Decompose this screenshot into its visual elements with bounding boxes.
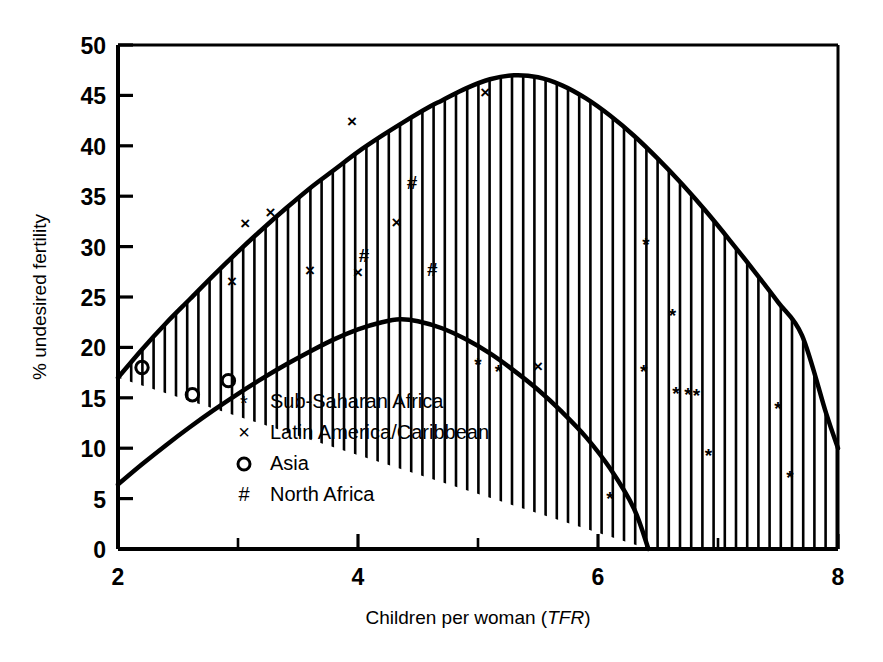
scatter-chart-svg: 05101520253035404550 2468 ************××… (0, 0, 883, 662)
legend-label: Sub-Saharan Africa (270, 390, 444, 412)
data-point: × (533, 357, 543, 376)
data-point: # (407, 172, 418, 193)
y-tick-label-5: 5 (93, 487, 106, 513)
data-point: * (693, 385, 701, 406)
x-tick-label-6: 6 (592, 564, 605, 590)
data-point: × (227, 272, 237, 291)
y-tick-label-20: 20 (80, 335, 106, 361)
data-point: × (240, 214, 250, 233)
y-tick-label-25: 25 (80, 285, 106, 311)
x-axis-title: Children per woman (TFR) (366, 607, 591, 628)
legend-label: Asia (270, 452, 310, 474)
data-point: * (786, 467, 794, 488)
data-point: × (347, 112, 357, 131)
x-tick-label-8: 8 (832, 564, 845, 590)
data-point: * (474, 354, 482, 375)
data-point: # (427, 259, 438, 280)
data-point: × (305, 261, 315, 280)
legend-item-latin-america-caribbean: ×Latin America/Caribbean (238, 421, 489, 443)
data-point: × (265, 203, 275, 222)
data-point: * (684, 384, 692, 405)
y-tick-label-40: 40 (80, 134, 106, 160)
data-point: # (359, 245, 370, 266)
y-tick-label-0: 0 (93, 537, 106, 563)
y-axis-title: % undesired fertility (29, 214, 50, 380)
data-point: * (606, 488, 614, 509)
y-tick-label-50: 50 (80, 33, 106, 59)
legend-label: Latin America/Caribbean (270, 421, 489, 443)
data-point: * (669, 305, 677, 326)
data-point: * (672, 383, 680, 404)
y-tick-label-30: 30 (80, 235, 106, 261)
x-tick-label-4: 4 (352, 564, 365, 590)
data-point: × (480, 83, 490, 102)
legend-item-sub-saharan-africa: *Sub-Saharan Africa (240, 390, 444, 414)
y-tick-label-35: 35 (80, 184, 106, 210)
y-tick-label-45: 45 (80, 83, 106, 109)
data-point: * (495, 361, 503, 382)
data-point: * (640, 361, 648, 382)
asterisk-marker: * (240, 392, 248, 414)
data-point: × (391, 213, 401, 232)
data-point: * (705, 445, 713, 466)
y-tick-label-10: 10 (80, 436, 106, 462)
cross-marker: × (238, 421, 250, 443)
data-point: * (642, 234, 650, 255)
legend-label: North Africa (270, 483, 375, 505)
x-tick-label-2: 2 (112, 564, 125, 590)
chart-figure: 05101520253035404550 2468 ************××… (0, 0, 883, 662)
hash-marker: # (238, 483, 250, 505)
data-point: * (774, 398, 782, 419)
y-tick-label-15: 15 (80, 386, 106, 412)
